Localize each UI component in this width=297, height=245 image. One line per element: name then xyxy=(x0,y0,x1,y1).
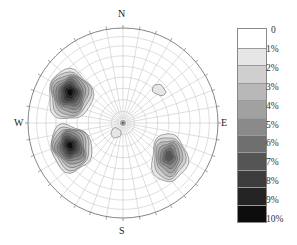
south-label: S xyxy=(119,226,125,236)
cluster-lower-west xyxy=(44,116,99,176)
legend-label: 6% xyxy=(266,139,279,149)
cluster-southeast xyxy=(152,134,189,182)
cluster-northeast-small xyxy=(151,82,168,98)
legend-band xyxy=(238,152,266,169)
north-label: N xyxy=(118,9,125,19)
polar-grid xyxy=(28,28,218,218)
legend-label: 7% xyxy=(266,158,279,168)
legend-band xyxy=(238,135,266,152)
legend-band xyxy=(238,29,266,48)
legend-label: 10% xyxy=(266,215,283,225)
legend-label: 0 xyxy=(271,26,276,36)
west-label: W xyxy=(14,118,23,128)
density-legend xyxy=(237,28,267,223)
legend-band xyxy=(238,100,266,117)
legend-band xyxy=(238,83,266,100)
legend-label: 4% xyxy=(266,102,279,112)
legend-label: 3% xyxy=(266,83,279,93)
cluster-upper-west xyxy=(50,68,94,119)
legend-band xyxy=(238,170,266,187)
legend-band xyxy=(238,65,266,82)
legend-band xyxy=(238,205,266,222)
legend-band xyxy=(238,187,266,204)
legend-label: 9% xyxy=(266,196,279,206)
east-label: E xyxy=(221,118,227,128)
legend-label: 8% xyxy=(266,177,279,187)
legend-label: 2% xyxy=(266,64,279,74)
legend-band xyxy=(238,48,266,65)
legend-band xyxy=(238,118,266,135)
legend-label: 5% xyxy=(266,121,279,131)
legend-label: 1% xyxy=(266,45,279,55)
